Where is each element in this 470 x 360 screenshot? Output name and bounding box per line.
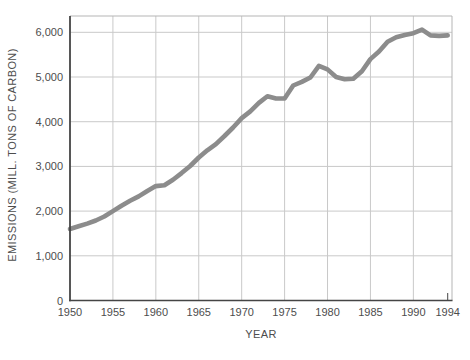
x-axis-title: YEAR [245,328,277,340]
y-tick-label: 0 [57,295,63,307]
y-tick-label: 1,000 [35,250,63,262]
plot-border-layer [70,16,452,301]
y-tick-label: 5,000 [35,71,63,83]
emissions-series-line [70,30,448,229]
gridlines-layer [70,16,452,301]
x-tick-label: 1950 [58,306,82,318]
x-tick-label: 1965 [187,306,211,318]
x-tick-label: 1994 [435,306,459,318]
x-tick-label: 1985 [358,306,382,318]
emissions-chart-page: 01,0002,0003,0004,0005,0006,000195019551… [0,0,470,360]
x-tick-label: 1980 [315,306,339,318]
emissions-line-chart: 01,0002,0003,0004,0005,0006,000195019551… [0,0,470,360]
x-tick-label: 1990 [401,306,425,318]
axes-layer [69,16,452,301]
x-tick-label: 1970 [229,306,253,318]
y-tick-label: 2,000 [35,205,63,217]
x-tick-label: 1960 [144,306,168,318]
data-series-layer [70,30,448,229]
x-tick-label: 1955 [101,306,125,318]
y-tick-label: 4,000 [35,116,63,128]
x-tick-label: 1975 [272,306,296,318]
y-axis-title: EMISSIONS (MILL. TONS OF CARBON) [6,48,18,261]
y-tick-label: 3,000 [35,160,63,172]
tick-labels-layer: 01,0002,0003,0004,0005,0006,000195019551… [35,26,459,318]
y-tick-label: 6,000 [35,26,63,38]
